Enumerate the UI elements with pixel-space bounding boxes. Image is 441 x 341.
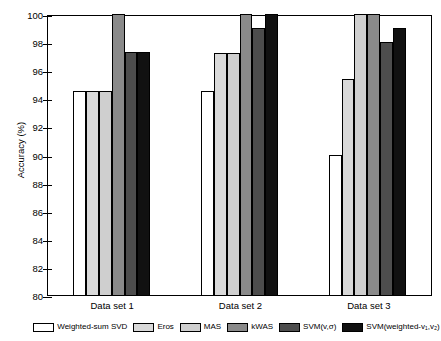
bar (99, 91, 112, 295)
plot-area: 80828486889092949698100Data set 1Data se… (47, 15, 432, 296)
chart-legend: Weighted-sum SVDErosMASkWASSVM(v,σ)SVM(w… (47, 319, 432, 335)
bar-chart-figure: Accuracy (%) 80828486889092949698100Data… (0, 0, 441, 341)
y-axis-tick-inner (48, 100, 52, 101)
y-axis-tick-inner (48, 44, 52, 45)
bar (354, 14, 367, 295)
y-axis-tick-label: 90 (32, 152, 43, 162)
x-axis-tick-label: Data set 1 (91, 301, 134, 311)
legend-swatch (180, 323, 201, 332)
legend-swatch (279, 323, 300, 332)
bar (393, 28, 406, 295)
bar (252, 28, 265, 295)
y-axis-tick-inner (48, 241, 52, 242)
y-axis-tick-label: 96 (32, 67, 43, 77)
bar-group (176, 16, 304, 295)
bar (86, 91, 99, 295)
legend-item: Weighted-sum SVD (33, 323, 127, 332)
y-axis-tick-inner (48, 157, 52, 158)
y-axis-tick-label: 82 (32, 264, 43, 274)
legend-label: Eros (157, 323, 173, 331)
legend-swatch (227, 323, 248, 332)
legend-item: SVM(weighted-v₁,v₂) (342, 323, 439, 332)
bar (125, 52, 138, 295)
bar (112, 14, 125, 295)
y-axis-tick-label: 88 (32, 180, 43, 190)
y-axis-tick-label: 94 (32, 96, 43, 106)
bar (240, 14, 253, 295)
legend-label: SVM(v,σ) (303, 323, 336, 331)
y-axis-tick-label: 92 (32, 124, 43, 134)
bar (329, 155, 342, 296)
y-axis-tick-label: 84 (32, 236, 43, 246)
y-axis-tick-inner (48, 16, 52, 17)
y-axis-tick-label: 86 (32, 208, 43, 218)
x-axis-tick-label: Data set 3 (347, 301, 390, 311)
x-axis-tick-label: Data set 2 (219, 301, 262, 311)
y-axis-tick-inner (48, 128, 52, 129)
y-axis-tick-inner (48, 297, 52, 298)
bar (137, 52, 150, 295)
bar-groups (48, 16, 431, 295)
y-axis-tick-inner (48, 213, 52, 214)
y-axis-tick-inner (48, 185, 52, 186)
y-axis-tick-label: 100 (27, 11, 43, 21)
y-axis-tick-label: 98 (32, 39, 43, 49)
y-axis-tick-inner (48, 269, 52, 270)
bar-group (303, 16, 431, 295)
legend-label: MAS (204, 323, 221, 331)
legend-label: kWAS (251, 323, 273, 331)
legend-swatch (342, 323, 363, 332)
legend-item: kWAS (227, 323, 273, 332)
legend-swatch (133, 323, 154, 332)
bar (201, 91, 214, 295)
bar-group (48, 16, 176, 295)
y-axis-title: Accuracy (%) (14, 5, 28, 295)
legend-item: SVM(v,σ) (279, 323, 336, 332)
bar (214, 53, 227, 295)
bar (73, 91, 86, 295)
legend-swatch (33, 323, 54, 332)
legend-label: Weighted-sum SVD (57, 323, 127, 331)
y-axis-tick-label: 80 (32, 292, 43, 302)
y-axis-tick-inner (48, 72, 52, 73)
bar (265, 14, 278, 295)
bar (227, 53, 240, 295)
bar (342, 79, 355, 295)
bar (367, 14, 380, 295)
legend-item: Eros (133, 323, 173, 332)
legend-label: SVM(weighted-v₁,v₂) (366, 323, 439, 331)
legend-item: MAS (180, 323, 221, 332)
bar (380, 42, 393, 295)
